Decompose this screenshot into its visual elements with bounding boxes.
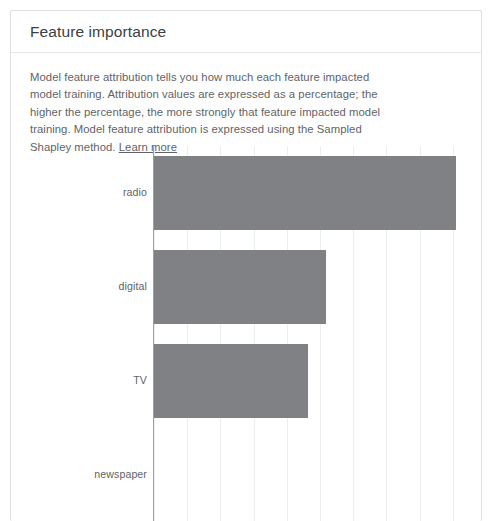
- y-axis-tick-label: TV: [17, 374, 147, 386]
- y-axis-labels: radiodigitalTVnewspaper: [11, 136, 147, 521]
- feature-importance-card: Feature importance Model feature attribu…: [10, 10, 482, 521]
- feature-importance-chart: radiodigitalTVnewspaper: [11, 136, 481, 521]
- chart-bar[interactable]: [154, 250, 326, 323]
- y-axis-tick-label: newspaper: [17, 468, 147, 480]
- plot-area: [154, 146, 482, 521]
- y-axis-tick-label: radio: [17, 186, 147, 198]
- chart-bar[interactable]: [154, 344, 308, 417]
- card-header: Feature importance: [11, 11, 481, 53]
- chart-bar[interactable]: [154, 156, 456, 229]
- y-axis-tick-label: digital: [17, 280, 147, 292]
- y-axis-line: [153, 146, 154, 521]
- screen-root: Feature importance Model feature attribu…: [0, 0, 493, 521]
- page-title: Feature importance: [30, 22, 166, 42]
